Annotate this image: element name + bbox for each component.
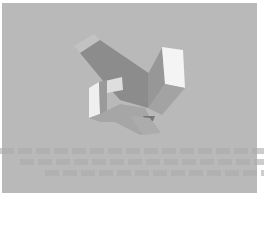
left-slab-front xyxy=(89,82,100,118)
left-slab-inner xyxy=(99,80,107,114)
bleed-through-text-line xyxy=(0,148,264,154)
bleed-through-text-line xyxy=(45,170,264,176)
right-block-front xyxy=(162,47,185,88)
bleed-through-text-line xyxy=(20,159,264,165)
